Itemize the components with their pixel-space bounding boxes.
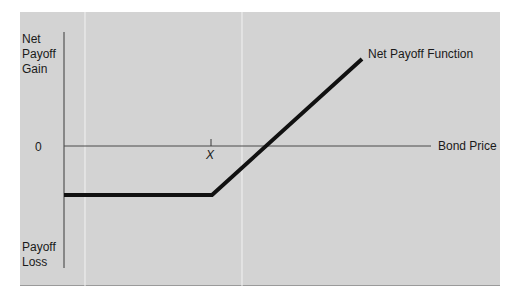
y-bottom-line-2: Loss <box>22 255 56 270</box>
y-axis-top-label: Net Payoff Gain <box>22 32 56 77</box>
strike-label: X <box>206 148 214 163</box>
net-payoff-curve <box>64 59 362 195</box>
y-top-line-3: Gain <box>22 62 56 77</box>
curve-label: Net Payoff Function <box>368 47 473 62</box>
zero-label: 0 <box>35 140 42 155</box>
y-axis-bottom-label: Payoff Loss <box>22 240 56 270</box>
chart-plot <box>0 0 514 294</box>
y-top-line-1: Net <box>22 32 56 47</box>
y-top-line-2: Payoff <box>22 47 56 62</box>
y-bottom-line-1: Payoff <box>22 240 56 255</box>
x-axis-label: Bond Price <box>438 139 497 154</box>
